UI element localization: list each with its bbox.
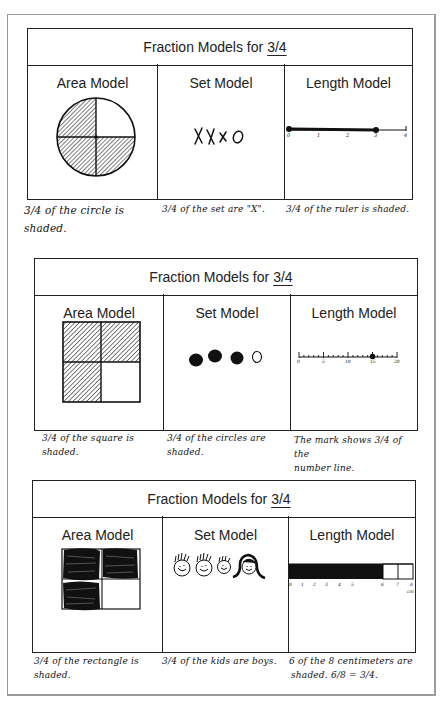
caption-length-1: 3/4 of the ruler is shaded. [286,202,416,216]
svg-text:2: 2 [312,582,316,587]
caption-set-3: 3/4 of the kids are boys. [162,654,287,668]
length-model-cell: Length Model 01234 [284,64,412,199]
svg-text:cm: cm [407,589,414,594]
fraction-models-table-1: Fraction Models for 3/4 Area Model Set [27,28,413,200]
length-model-cell: Length Model 0123 45678 cm [288,516,415,652]
caption-set-1: 3/4 of the set are "X". [162,202,284,216]
caption-set-2: 3/4 of the circles are shaded. [167,431,287,459]
caption-length-2: The mark shows 3/4 of the number line. [294,433,416,475]
circles-set-figure [164,294,291,430]
length-model-cell: Length Model 05101520 [290,294,417,430]
title-fraction: 3/4 [267,39,296,55]
svg-text:3: 3 [325,582,328,587]
svg-text:8: 8 [410,582,413,587]
table-title: Fraction Models for 3/4 [33,481,415,518]
table-title: Fraction Models for 3/4 [28,29,412,66]
kids-faces-figure [163,516,289,652]
hatched-square-figure [35,294,163,430]
title-prefix: Fraction Models for [147,491,267,507]
svg-text:5: 5 [351,582,354,587]
area-model-cell: Area Model [28,64,157,199]
title-prefix: Fraction Models for [149,269,269,285]
svg-text:15: 15 [370,359,376,364]
centimeter-bar-figure: 0123 45678 cm [289,516,416,652]
svg-text:0: 0 [289,582,292,587]
title-fraction: 3/4 [271,491,300,507]
svg-text:5: 5 [322,359,325,364]
svg-text:2: 2 [345,132,349,138]
set-model-cell: Set Model [157,64,284,199]
area-model-cell: Area Model [33,516,162,652]
svg-text:1: 1 [301,582,304,587]
number-line-figure: 05101520 [291,294,418,430]
svg-text:20: 20 [393,359,400,364]
x-o-set-figure [158,64,285,199]
caption-area-1: 3/4 of the circle is shaded. [24,201,154,237]
area-model-cell: Area Model [35,294,163,430]
title-fraction: 3/4 [273,269,302,285]
svg-text:3: 3 [374,132,377,138]
svg-text:0: 0 [297,359,300,364]
svg-text:7: 7 [396,582,399,587]
caption-length-3: 6 of the 8 centimeters are shaded. 6/8 =… [289,654,419,682]
hatched-circle-figure [28,64,157,199]
svg-text:4: 4 [337,582,341,587]
svg-text:1: 1 [317,132,320,138]
svg-text:4: 4 [403,132,407,138]
number-line-figure: 01234 [285,64,413,199]
svg-text:6: 6 [381,582,384,587]
svg-text:10: 10 [345,359,351,364]
set-model-cell: Set Model [163,294,290,430]
scribbled-rectangle-figure [33,516,162,652]
title-prefix: Fraction Models for [143,39,263,55]
caption-area-2: 3/4 of the square is shaded. [42,431,170,459]
table-title: Fraction Models for 3/4 [35,259,417,296]
caption-area-3: 3/4 of the rectangle is shaded. [34,654,162,682]
fraction-models-table-3: Fraction Models for 3/4 Area Model Set M… [32,480,416,653]
svg-text:0: 0 [287,132,291,138]
set-model-cell: Set Model [162,516,288,652]
fraction-models-table-2: Fraction Models for 3/4 Area Model Set M… [34,258,418,431]
